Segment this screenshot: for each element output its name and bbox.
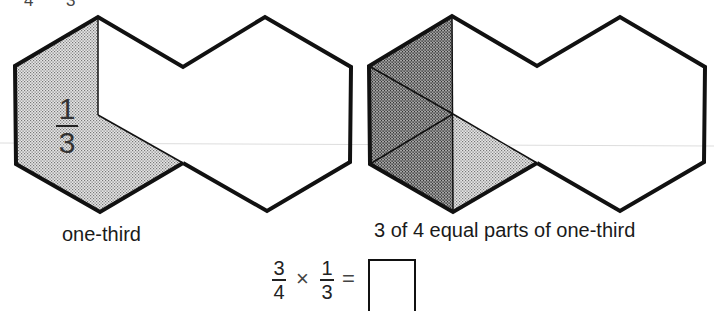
- times-sign: ×: [296, 266, 309, 292]
- numerator: 1: [59, 94, 76, 124]
- equals-sign: =: [342, 266, 355, 292]
- numerator: 1: [321, 258, 332, 278]
- left-caption: one-third: [62, 223, 141, 246]
- denominator: 4: [273, 282, 284, 302]
- one-third-label: 1 3: [56, 94, 78, 158]
- remaining-quarter-light-region: [453, 114, 537, 212]
- one-third-shaded-region: [15, 17, 183, 212]
- denominator: 3: [59, 128, 76, 158]
- denominator: 3: [321, 282, 332, 302]
- right-caption: 3 of 4 equal parts of one-third: [374, 219, 635, 242]
- right-hexagon-figure: [369, 16, 705, 212]
- numerator: 3: [273, 258, 284, 278]
- answer-box[interactable]: [368, 259, 416, 311]
- fragment-digit-3: 3: [66, 0, 75, 11]
- fraction-one-third: 1 3: [320, 258, 334, 302]
- fragment-digit-4: 4: [24, 0, 33, 11]
- fraction-three-quarters: 3 4: [272, 258, 286, 302]
